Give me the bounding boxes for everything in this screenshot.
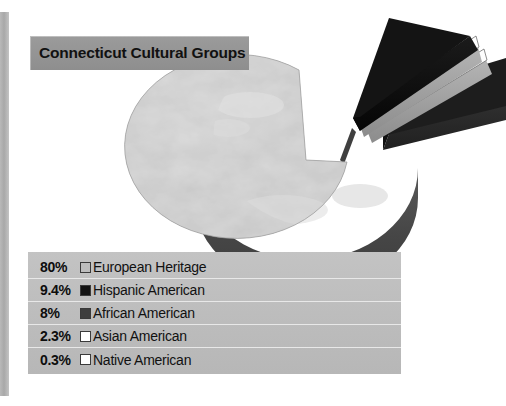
legend-swatch-native-american xyxy=(80,354,91,365)
legend-row-european-heritage: 80% European Heritage xyxy=(28,256,401,279)
legend-label: Asian American xyxy=(92,328,187,344)
legend-row-hispanic-american: 9.4% Hispanic American xyxy=(28,279,401,302)
legend-label: European Heritage xyxy=(92,259,206,275)
legend-row-african-american: 8% African American xyxy=(28,302,401,325)
chart-title-banner: Connecticut Cultural Groups xyxy=(30,36,249,70)
legend-percent: 2.3% xyxy=(28,328,80,344)
legend-label: Native American xyxy=(92,352,191,368)
legend-row-native-american: 0.3% Native American xyxy=(28,348,401,371)
legend-swatch-african-american xyxy=(80,308,91,319)
legend-swatch-asian-american xyxy=(80,331,91,342)
chart-page: Connecticut Cultural Groups 80% European… xyxy=(0,0,506,406)
legend-percent: 8% xyxy=(28,305,80,321)
legend-row-asian-american: 2.3% Asian American xyxy=(28,325,401,348)
legend-percent: 0.3% xyxy=(28,352,80,368)
chart-legend: 80% European Heritage 9.4% Hispanic Amer… xyxy=(28,252,401,374)
legend-label: Hispanic American xyxy=(92,282,205,298)
legend-swatch-european-heritage xyxy=(80,262,91,273)
legend-percent: 9.4% xyxy=(28,282,80,298)
legend-swatch-hispanic-american xyxy=(80,285,91,296)
legend-label: African American xyxy=(92,305,195,321)
legend-percent: 80% xyxy=(28,259,80,275)
page-title: Connecticut Cultural Groups xyxy=(30,44,245,62)
